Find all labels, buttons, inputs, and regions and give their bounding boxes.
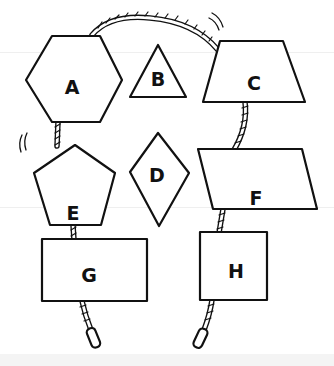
rope-f-to-h [217, 209, 225, 233]
rope-a-to-c [92, 12, 218, 50]
shape-a-hexagon: A [26, 36, 122, 122]
shape-e-label: E [67, 202, 80, 224]
shape-c-trapezoid: C [203, 41, 305, 102]
rope-c-to-f [234, 102, 248, 150]
shape-d-diamond: D [130, 133, 189, 226]
rope-e-to-g [71, 225, 76, 240]
bottom-edge-band [0, 354, 334, 366]
shape-d-label: D [149, 164, 165, 186]
shape-h-label: H [228, 260, 244, 282]
shape-f-parallelogram: F [198, 149, 317, 209]
shapes-rope-diagram: A B C D E F G H [0, 0, 334, 366]
motion-marks-near-c [209, 13, 223, 30]
shape-b-label: B [151, 68, 165, 90]
rope-end-tip-h [192, 327, 209, 349]
rope-end-tip-g [86, 327, 102, 349]
shape-c-label: C [247, 72, 261, 94]
rope-a-to-e [55, 122, 60, 146]
shape-g-rectangle: G [42, 239, 147, 301]
rope-g-tail [80, 301, 101, 349]
motion-marks-near-e [20, 133, 27, 152]
shape-h-square: H [200, 232, 267, 300]
shape-a-label: A [65, 76, 80, 98]
shape-g-label: G [81, 264, 97, 286]
shape-b-triangle: B [130, 45, 186, 97]
shape-e-pentagon: E [34, 145, 115, 225]
rope-h-tail [192, 300, 214, 349]
shape-f-label: F [250, 187, 263, 209]
